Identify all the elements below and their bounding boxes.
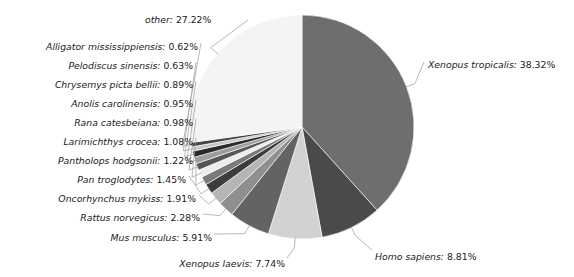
pie-label-xenopus-laevis-value: 7.74% — [255, 258, 285, 269]
pie-label-xenopus-tropicalis: Xenopus tropicalis: 38.32% — [428, 59, 555, 70]
pie-label-homo-sapiens: Homo sapiens: 8.81% — [375, 251, 477, 262]
leader-line — [351, 226, 372, 250]
pie-label-pan-troglodytes-name: Pan troglodytes: — [77, 174, 153, 185]
pie-label-mus-musculus: Mus musculus: 5.91% — [0, 232, 212, 243]
pie-label-pelodiscus-sinensis-value: 0.63% — [163, 60, 193, 71]
pie-label-rana-catesbeiana-name: Rana catesbeiana: — [74, 117, 160, 128]
pie-label-pan-troglodytes: Pan troglodytes: 1.45% — [0, 174, 186, 185]
pie-label-larimichthys-crocea-name: Larimichthys crocea: — [63, 136, 160, 147]
pie-label-oncorhynchus-mykiss: Oncorhynchus mykiss: 1.91% — [0, 193, 196, 204]
pie-label-mus-musculus-name: Mus musculus: — [111, 232, 180, 243]
pie-label-alligator-mississippiensis-name: Alligator mississippiensis: — [46, 41, 165, 52]
leader-line — [405, 62, 424, 87]
pie-chart-figure: other: 27.22% Alligator mississippiensis… — [0, 0, 574, 277]
pie-label-other-value: 27.22% — [176, 14, 211, 25]
pie-label-pelodiscus-sinensis: Pelodiscus sinensis: 0.63% — [0, 60, 193, 71]
pie-label-mus-musculus-value: 5.91% — [182, 232, 212, 243]
leader-line — [287, 238, 295, 258]
pie-label-pan-troglodytes-value: 1.45% — [156, 174, 186, 185]
pie-label-pantholops-hodgsonii: Pantholops hodgsonii: 1.22% — [0, 155, 193, 166]
pie-label-anolis-carolinensis: Anolis carolinensis: 0.95% — [0, 98, 193, 109]
pie-label-xenopus-laevis: Xenopus laevis: 7.74% — [0, 258, 285, 269]
pie-label-chrysemys-picta-bellii-value: 0.89% — [163, 79, 193, 90]
pie-label-oncorhynchus-mykiss-name: Oncorhynchus mykiss: — [58, 193, 163, 204]
pie-label-anolis-carolinensis-value: 0.95% — [163, 98, 193, 109]
pie-label-rattus-norvegicus: Rattus norvegicus: 2.28% — [0, 212, 200, 223]
pie-label-other-name: other: — [145, 14, 173, 25]
pie-label-rattus-norvegicus-name: Rattus norvegicus: — [80, 212, 167, 223]
pie-label-other: other: 27.22% — [145, 14, 211, 25]
pie-label-pelodiscus-sinensis-name: Pelodiscus sinensis: — [68, 60, 160, 71]
pie-slice — [190, 15, 302, 143]
pie-label-alligator-mississippiensis: Alligator mississippiensis: 0.62% — [0, 41, 198, 52]
pie-label-xenopus-tropicalis-value: 38.32% — [520, 59, 555, 70]
pie-label-larimichthys-crocea-value: 1.08% — [163, 136, 193, 147]
pie-label-xenopus-laevis-name: Xenopus laevis: — [179, 258, 252, 269]
pie-label-xenopus-tropicalis-name: Xenopus tropicalis: — [428, 59, 517, 70]
pie-label-alligator-mississippiensis-value: 0.62% — [168, 41, 198, 52]
pie-label-chrysemys-picta-bellii-name: Chrysemys picta bellii: — [55, 79, 161, 90]
pie-label-homo-sapiens-value: 8.81% — [447, 251, 477, 262]
pie-label-homo-sapiens-name: Homo sapiens: — [375, 251, 444, 262]
pie-label-larimichthys-crocea: Larimichthys crocea: 1.08% — [0, 136, 193, 147]
pie-label-chrysemys-picta-bellii: Chrysemys picta bellii: 0.89% — [0, 79, 193, 90]
pie-label-pantholops-hodgsonii-name: Pantholops hodgsonii: — [58, 155, 161, 166]
pie-slice-group — [190, 15, 414, 239]
pie-label-oncorhynchus-mykiss-value: 1.91% — [166, 193, 196, 204]
pie-label-pantholops-hodgsonii-value: 1.22% — [163, 155, 193, 166]
leader-line — [203, 208, 227, 215]
pie-label-rana-catesbeiana: Rana catesbeiana: 0.98% — [0, 117, 193, 128]
pie-label-rattus-norvegicus-value: 2.28% — [170, 212, 200, 223]
pie-label-rana-catesbeiana-value: 0.98% — [163, 117, 193, 128]
pie-label-anolis-carolinensis-name: Anolis carolinensis: — [71, 98, 160, 109]
leader-line — [214, 225, 250, 234]
